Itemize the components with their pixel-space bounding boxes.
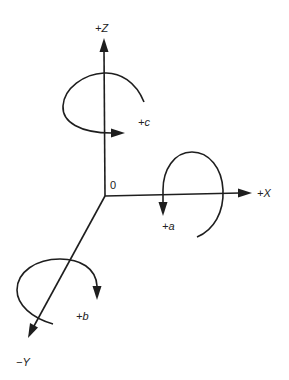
- z-axis-arrowhead-icon: [100, 38, 109, 52]
- y-axis-label: −Y: [16, 356, 30, 368]
- rotation-c-arrowhead-icon: [111, 129, 125, 138]
- x-axis-arrowhead-icon: [238, 189, 252, 198]
- y-axis-arrowhead-icon: [28, 323, 38, 338]
- rotation-b-label: +b: [76, 310, 89, 322]
- z-axis: [100, 38, 109, 196]
- z-axis-label: +Z: [95, 22, 109, 34]
- rotation-a-arrowhead-icon: [159, 202, 168, 216]
- rotation-a-label: +a: [162, 220, 175, 232]
- rotation-b-arrow: [17, 259, 102, 324]
- rotation-c-label: +c: [138, 116, 150, 128]
- origin-label: 0: [110, 179, 116, 191]
- rotation-b-arrowhead-icon: [93, 286, 102, 300]
- x-axis-label: +X: [257, 187, 271, 199]
- y-axis: [28, 196, 105, 338]
- coordinate-axes-diagram: +Z +X −Y 0 +c +a +b: [0, 0, 289, 380]
- x-axis: [105, 189, 252, 198]
